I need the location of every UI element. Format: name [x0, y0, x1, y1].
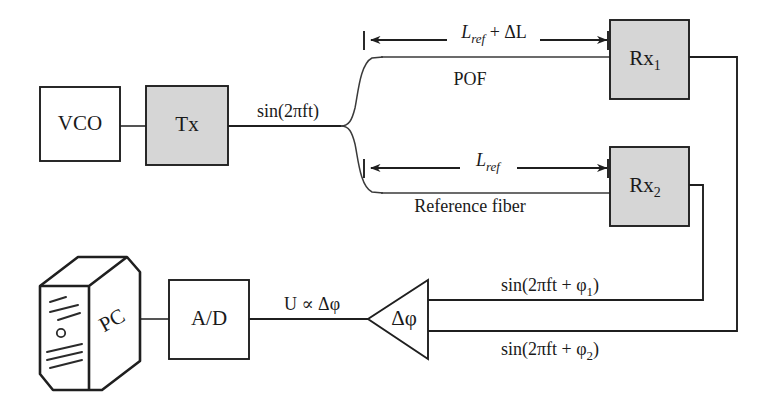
block-rx1-base: Rx — [629, 46, 654, 70]
block-ad-label: A/D — [191, 306, 227, 330]
dimension-label-pof: Lref + ΔL — [460, 22, 527, 46]
signal-label-phase-2: sin(2πft + φ2) — [501, 339, 599, 363]
signal-label-output-voltage: U ∝ Δφ — [284, 294, 340, 314]
signal-phase-2-prefix: sin(2πft + φ — [501, 339, 587, 360]
block-vco[interactable]: VCO — [40, 87, 120, 161]
pc-tower-label: PC — [95, 303, 129, 336]
pc-drive-slots-icon — [50, 297, 80, 320]
phase-detector[interactable]: Δφ — [368, 280, 428, 359]
dimension-pof-length: Lref + ΔL — [364, 22, 608, 50]
dimension-reference-length: Lref — [364, 150, 608, 178]
pc-vent-lines-icon — [47, 344, 82, 368]
block-ad[interactable]: A/D — [169, 280, 249, 359]
block-diagram-canvas: Lref + ΔL Lref POF Reference fiber VCO T… — [0, 0, 773, 402]
signal-label-source: sin(2πft) — [257, 101, 319, 122]
block-tx[interactable]: Tx — [146, 86, 228, 165]
block-rx1[interactable]: Rx1 — [610, 20, 689, 99]
dimension-label-reference: Lref — [475, 150, 502, 174]
pc-power-button-icon — [57, 329, 65, 337]
block-rx2[interactable]: Rx2 — [610, 147, 689, 226]
signal-label-phase-1: sin(2πft + φ1) — [501, 275, 599, 299]
pc-tower[interactable]: PC — [40, 257, 140, 390]
signal-phase-1-suffix: ) — [593, 275, 599, 296]
block-vco-label: VCO — [58, 111, 102, 135]
dim-ref-base: L — [475, 150, 486, 170]
phase-detector-label: Δφ — [391, 306, 417, 330]
dim-pof-base: L — [460, 22, 471, 42]
signal-phase-1-prefix: sin(2πft + φ — [501, 275, 587, 296]
dim-ref-sub: ref — [486, 159, 502, 174]
signal-phase-2-suffix: ) — [593, 339, 599, 360]
diagram-svg: Lref + ΔL Lref POF Reference fiber VCO T… — [0, 0, 773, 402]
block-tx-label: Tx — [175, 112, 199, 136]
block-rx2-base: Rx — [629, 173, 654, 197]
block-rx2-sub: 2 — [654, 185, 661, 200]
fiber-label-reference-fiber: Reference fiber — [414, 196, 525, 216]
fiber-label-pof: POF — [453, 69, 486, 89]
dim-pof-tail: + ΔL — [485, 22, 527, 42]
fiber-splitter-y — [341, 57, 383, 193]
block-rx1-sub: 1 — [654, 58, 661, 73]
